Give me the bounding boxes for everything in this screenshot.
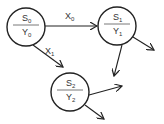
output-label-y1: Y1 <box>113 26 123 37</box>
state-label-s0: S0 <box>22 13 32 24</box>
state-diagram: S0 Y0 S1 Y1 S2 Y2 X0 X1 <box>0 0 164 124</box>
transition-label-x1: X1 <box>45 46 55 57</box>
transition-s2-out-down <box>85 105 104 119</box>
transition-s1-out-down <box>114 45 122 76</box>
transition-s1-out-right <box>133 37 154 50</box>
state-node-s1: S1 Y1 <box>98 7 136 45</box>
transition-s0-s1: X0 <box>45 11 97 26</box>
output-label-y2: Y2 <box>66 92 76 103</box>
transition-s0-s2: X1 <box>33 45 63 67</box>
state-label-s1: S1 <box>113 12 123 23</box>
state-node-s0: S0 Y0 <box>7 8 45 46</box>
transition-label-x0: X0 <box>65 11 75 22</box>
transition-s2-out-right <box>89 86 122 95</box>
state-node-s2: S2 Y2 <box>51 73 89 111</box>
output-label-y0: Y0 <box>22 27 32 38</box>
state-label-s2: S2 <box>66 78 76 89</box>
